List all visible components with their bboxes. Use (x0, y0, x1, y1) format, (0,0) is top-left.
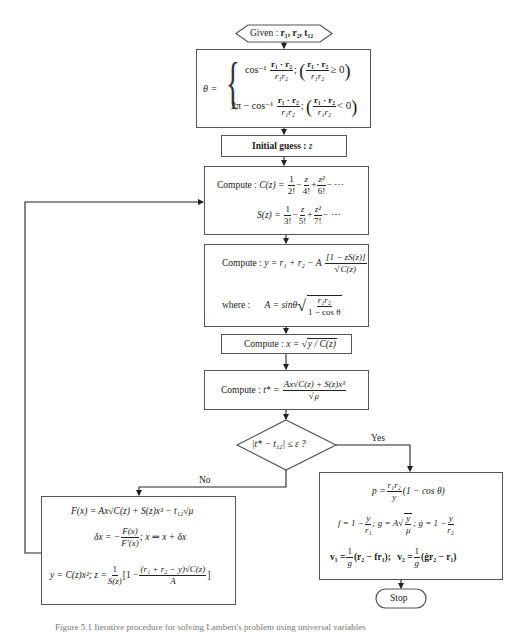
v1-den: g (347, 558, 352, 568)
theta-case2-num: r₁ · r₂ (277, 96, 300, 107)
v1-rhs: (r₂ − fr₁); (354, 552, 391, 562)
no-label: No (199, 476, 211, 486)
f-expr: f = 1 − (338, 518, 364, 528)
c-term2-den: 4! (303, 186, 311, 196)
theta-case1-num: r₁ · r₂ (270, 60, 293, 71)
s-term1-den: 3! (284, 216, 292, 226)
theta-cond2-num: r₁ · r₂ (313, 96, 336, 107)
a-num: r₁r₂ (317, 296, 332, 307)
theta-case2-expr: 2π − cos⁻¹ (231, 100, 273, 111)
theta-cond2-den: r₁r₂ (318, 107, 331, 117)
where-label: where : (222, 300, 250, 310)
s-ellipsis: − ⋯ (323, 210, 341, 220)
x-radicand: y / C(z) (307, 338, 337, 349)
compute-t-line: Compute : t* = Ax√C(z) + S(z)x³√μ (221, 380, 347, 401)
stop-label: Stop (390, 594, 407, 604)
compute-cs-label: Compute : (217, 180, 257, 190)
where-line: where : A = sinθ√r₁r₂1 − cos θ (222, 295, 343, 317)
compute-y-label: Compute : (222, 258, 262, 268)
v-line: v₁ =1g(r₂ − fr₁); v₂ =1g(ġr₂ − r₁) (330, 547, 456, 568)
compute-t-label: Compute : (221, 385, 261, 395)
s-term2-num: z (300, 205, 306, 216)
compute-x-line: Compute : x = √y / C(z) (244, 340, 337, 350)
fg-line: f = 1 −yr₁; g = A√yμ; ġ = 1 −yr₂ (338, 513, 455, 535)
z-update-bracket-open: [1 − (123, 570, 139, 580)
v2-den: g (415, 558, 420, 568)
p-line: p =r₁r₂y(1 − cos θ) (372, 481, 445, 502)
v1-num: 1 (346, 547, 353, 558)
dx-num: F(x) (121, 527, 139, 538)
yes-label: Yes (371, 434, 385, 444)
z-update-inner-den: A (170, 576, 176, 586)
c-lhs: C(z) = (259, 180, 284, 190)
compute-s-line: S(z) = 13!−z5!+z²7!− ⋯ (257, 205, 341, 226)
initial-guess-var: z (309, 141, 313, 151)
s-term2-den: 5! (299, 216, 307, 226)
x-expr: x = (286, 339, 299, 349)
s-term1-num: 1 (284, 205, 291, 216)
v2-lhs: v₂ = (397, 552, 412, 562)
theta-cond1-num: r₁ · r₂ (306, 60, 329, 71)
newton-update-box: F(x) = Ax√C(z) + S(z)x³ − t₁₂√μ δx = −F(… (41, 496, 236, 605)
theta-lhs: θ = (203, 84, 217, 94)
g-num: y (405, 514, 411, 525)
p-den: y (392, 492, 396, 502)
theta-case1-expr: cos⁻¹ (245, 64, 267, 75)
z-update-bracket-close: ] (207, 570, 210, 580)
y-expr: y = r₁ + r₂ − A (264, 258, 321, 268)
v2-rhs: (ġr₂ − r₁) (421, 552, 456, 562)
theta-cond1-den: r₁r₂ (311, 71, 324, 81)
a-den: 1 − cos θ (308, 307, 341, 317)
p-rhs: (1 − cos θ) (403, 486, 445, 496)
c-term2-num: z (304, 175, 310, 186)
start-terminal: Given : r₁, r₂, t₁₂ (250, 29, 313, 39)
initial-guess-box: Initial guess : z (221, 135, 347, 157)
c-term1-num: 1 (288, 175, 295, 186)
f-den: r₁ (365, 525, 372, 535)
theta-case2-den: r₁r₂ (282, 107, 295, 117)
t-den: μ (314, 390, 321, 401)
z-update-lhs: y = C(z)x²; z = (50, 570, 107, 580)
result-box: p =r₁r₂y(1 − cos θ) f = 1 −yr₁; g = A√yμ… (319, 472, 503, 580)
compute-t-box: Compute : t* = Ax√C(z) + S(z)x³√μ (204, 370, 369, 410)
gdot-num: y (448, 514, 454, 525)
compute-y-line: Compute : y = r₁ + r₂ − A [1 − zS(z)]√C(… (222, 253, 368, 274)
c-term3-num: z² (317, 175, 325, 186)
dx-lhs: δx = − (94, 532, 120, 542)
compute-y-box: Compute : y = r₁ + r₂ − A [1 − zS(z)]√C(… (204, 244, 369, 327)
theta-cond1: ≥ 0 (330, 63, 344, 75)
v2-num: 1 (414, 547, 421, 558)
s-term3-num: z² (314, 205, 322, 216)
v1-lhs: v₁ = (330, 552, 345, 562)
gdot-expr: ; ġ = 1 − (413, 518, 446, 528)
g-expr: ; g = A (373, 518, 399, 528)
newton-line2: δx = −F(x)F′(x); x ⇒ x + δx (94, 527, 186, 548)
figure-caption: Figure 5.1 Iterative procedure for solvi… (55, 622, 366, 632)
g-den: μ (406, 525, 411, 535)
s-term3-den: 7! (314, 216, 322, 226)
initial-guess-text: Initial guess : z (252, 142, 312, 152)
f-num: y (365, 514, 371, 525)
start-label: Given : (250, 28, 278, 38)
theta-case2: 2π − cos⁻¹ r₁ · r₂r₁r₂; (r₁ · r₂r₁r₂< 0) (231, 96, 357, 117)
p-num: r₁r₂ (387, 481, 402, 492)
compute-x-label: Compute : (244, 339, 284, 349)
dx-den: F′(x) (121, 538, 138, 548)
compute-c-line: Compute : C(z) = 12!−z4!+z²6!− ⋯ (217, 175, 344, 196)
start-vars: r₁, r₂, t₁₂ (281, 28, 314, 38)
c-term3-den: 6! (318, 186, 326, 196)
theta-case1: cos⁻¹ r₁ · r₂r₁r₂; (r₁ · r₂r₁r₂≥ 0) (245, 60, 350, 81)
gdot-den: r₂ (447, 525, 454, 535)
theta-cond2: < 0 (337, 99, 351, 111)
theta-case1-den: r₁r₂ (275, 71, 288, 81)
c-term1-den: 2! (288, 186, 296, 196)
p-lhs: p = (372, 486, 386, 496)
initial-guess-label: Initial guess : (252, 141, 306, 151)
z-update-num: 1 (112, 565, 119, 576)
theta-box: θ = { cos⁻¹ r₁ · r₂r₁r₂; (r₁ · r₂r₁r₂≥ 0… (196, 49, 371, 128)
s-lhs: S(z) = (257, 210, 281, 220)
newton-line3: y = C(z)x²; z =1S(z)[1 −(r₁ + r₂ − y)√C(… (50, 565, 211, 586)
y-den: C(z) (339, 263, 357, 274)
newton-line1: F(x) = Ax√C(z) + S(z)x³ − t₁₂√μ (71, 507, 193, 517)
compute-cs-box: Compute : C(z) = 12!−z4!+z²6!− ⋯ S(z) = … (204, 166, 369, 235)
